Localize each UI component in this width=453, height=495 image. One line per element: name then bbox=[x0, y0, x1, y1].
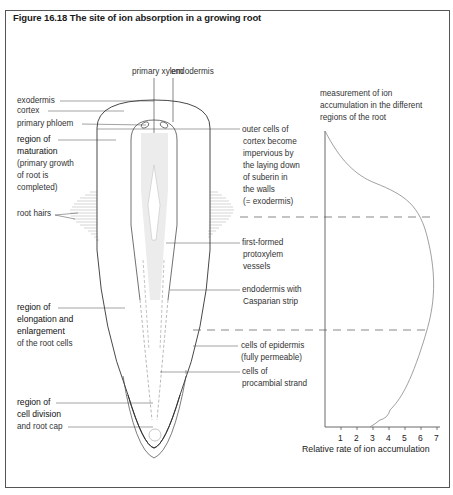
label-cortex: cortex bbox=[17, 105, 39, 117]
x-tick-3: 3 bbox=[370, 433, 375, 443]
label-elongation-1: region of bbox=[17, 302, 50, 314]
label-outer-cells-4: the laying down bbox=[243, 160, 300, 172]
label-primary-phloem: primary phloem bbox=[17, 118, 73, 130]
label-outer-cells-2: cortex become bbox=[243, 136, 297, 148]
label-elongation-4: of the root cells bbox=[17, 338, 73, 350]
x-tick-5: 5 bbox=[402, 433, 407, 443]
label-outer-cells-7: (= exodermis) bbox=[243, 196, 293, 208]
label-elongation-2: elongation and bbox=[17, 314, 73, 326]
graph-x-label: Relative rate of ion accumulation bbox=[302, 444, 430, 456]
label-division-1: region of bbox=[17, 397, 50, 409]
label-protoxylem-2: protoxylem bbox=[243, 249, 283, 261]
label-division-2: cell division bbox=[17, 409, 61, 421]
label-division-3: and root cap bbox=[17, 421, 63, 433]
root-cap-outline bbox=[123, 376, 186, 458]
meristem-circle bbox=[149, 429, 161, 441]
label-elongation-3: enlargement bbox=[17, 326, 65, 338]
x-tick-6: 6 bbox=[418, 433, 423, 443]
label-epidermis-2: (fully permeable) bbox=[241, 352, 302, 364]
root-hairs-left bbox=[70, 192, 99, 240]
label-outer-cells-1: outer cells of bbox=[242, 124, 288, 136]
label-outer-cells-3: impervious by bbox=[243, 148, 294, 160]
root-hairs-right bbox=[208, 192, 234, 237]
label-outer-cells-6: the walls bbox=[243, 184, 275, 196]
ion-accumulation-curve bbox=[325, 131, 434, 427]
label-maturation-5: completed) bbox=[17, 182, 58, 194]
root-diagram-art bbox=[0, 0, 453, 495]
label-casparian-2: Casparian strip bbox=[243, 296, 298, 308]
label-epidermis-1: cells of epidermis bbox=[241, 340, 304, 352]
graph-heading-2: accumulation in the different bbox=[320, 100, 422, 112]
x-tick-2: 2 bbox=[354, 433, 359, 443]
label-procambial-1: cells of bbox=[242, 366, 267, 378]
label-maturation-2: maturation bbox=[17, 146, 58, 158]
label-casparian-1: endodermis with bbox=[242, 284, 302, 296]
label-maturation-1: region of bbox=[17, 134, 50, 146]
label-root-hairs: root hairs bbox=[17, 208, 51, 220]
graph-heading-1: measurement of ion bbox=[320, 88, 392, 100]
label-endodermis: endodermis bbox=[171, 66, 214, 78]
label-outer-cells-5: of suberin in bbox=[243, 172, 288, 184]
x-tick-7: 7 bbox=[434, 433, 439, 443]
label-procambial-2: procambial strand bbox=[242, 378, 307, 390]
x-tick-4: 4 bbox=[386, 433, 391, 443]
x-tick-1: 1 bbox=[338, 433, 343, 443]
label-protoxylem-3: vessels bbox=[243, 261, 270, 273]
label-maturation-4: of root is bbox=[17, 170, 48, 182]
label-protoxylem-1: first-formed bbox=[242, 237, 283, 249]
graph-heading-3: regions of the root bbox=[320, 112, 386, 124]
label-maturation-3: (primary growth bbox=[17, 158, 74, 170]
